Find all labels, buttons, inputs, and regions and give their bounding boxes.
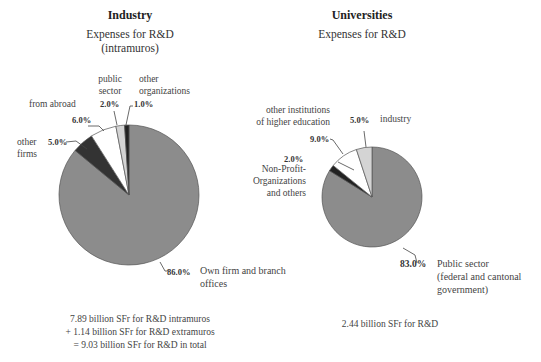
label-industry: industry (380, 113, 411, 125)
label-from-abroad: from abroad (29, 98, 76, 110)
universities-pie (322, 147, 422, 247)
pct-own-firm: 86.0% (167, 266, 190, 278)
pct-other-organizations: 1.0% (134, 98, 153, 110)
label-public-sector-univ: Public sector(federal and cantonalgovern… (437, 257, 521, 296)
label-other-institutions: other institutionsof higher education (240, 104, 330, 128)
universities-footnote: 2.44 billion SFr for R&D (325, 318, 455, 331)
industry-subtitle: Expenses for R&D (70, 27, 190, 41)
label-non-profit: Non-Profit-Organizationsand others (240, 163, 306, 199)
pct-industry: 5.0% (350, 114, 369, 126)
pct-from-abroad: 6.0% (72, 114, 91, 126)
label-own-firm: Own firm and branchoffices (200, 264, 286, 290)
industry-footnote: 7.89 billion SFr for R&D intramuros+ 1.1… (40, 313, 240, 352)
label-other-firms: otherfirms (17, 136, 37, 160)
pct-public-sector-univ: 83.0% (400, 258, 426, 270)
pct-other-institutions: 9.0% (310, 133, 329, 145)
industry-subtitle-2: (intramuros) (70, 41, 190, 55)
pct-other-firms: 5.0% (48, 136, 67, 148)
universities-title: Universities (320, 9, 404, 21)
industry-title: Industry (91, 9, 169, 21)
industry-pie (59, 125, 199, 265)
universities-subtitle: Expenses for R&D (312, 27, 412, 41)
label-other-organizations: otherorganizations (139, 73, 190, 97)
label-public-sector: publicsector (92, 73, 128, 97)
pct-public-sector: 2.0% (100, 98, 119, 110)
